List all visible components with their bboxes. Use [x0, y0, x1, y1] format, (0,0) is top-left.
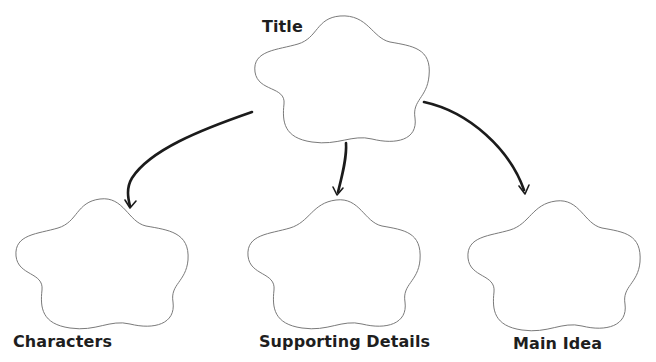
arrow-to-characters: [125, 112, 252, 208]
characters-label: Characters: [13, 332, 112, 351]
title-label: Title: [262, 17, 303, 36]
main-idea-cloud-shape[interactable]: [468, 201, 640, 331]
supporting-details-cloud-shape[interactable]: [248, 200, 420, 329]
diagram-canvas: [0, 0, 656, 362]
arrow-to-supporting-details: [333, 143, 346, 195]
characters-cloud-shape[interactable]: [16, 199, 188, 329]
arrow-to-main-idea: [424, 102, 529, 194]
supporting-details-label: Supporting Details: [259, 332, 430, 351]
main-idea-label: Main Idea: [513, 334, 602, 353]
